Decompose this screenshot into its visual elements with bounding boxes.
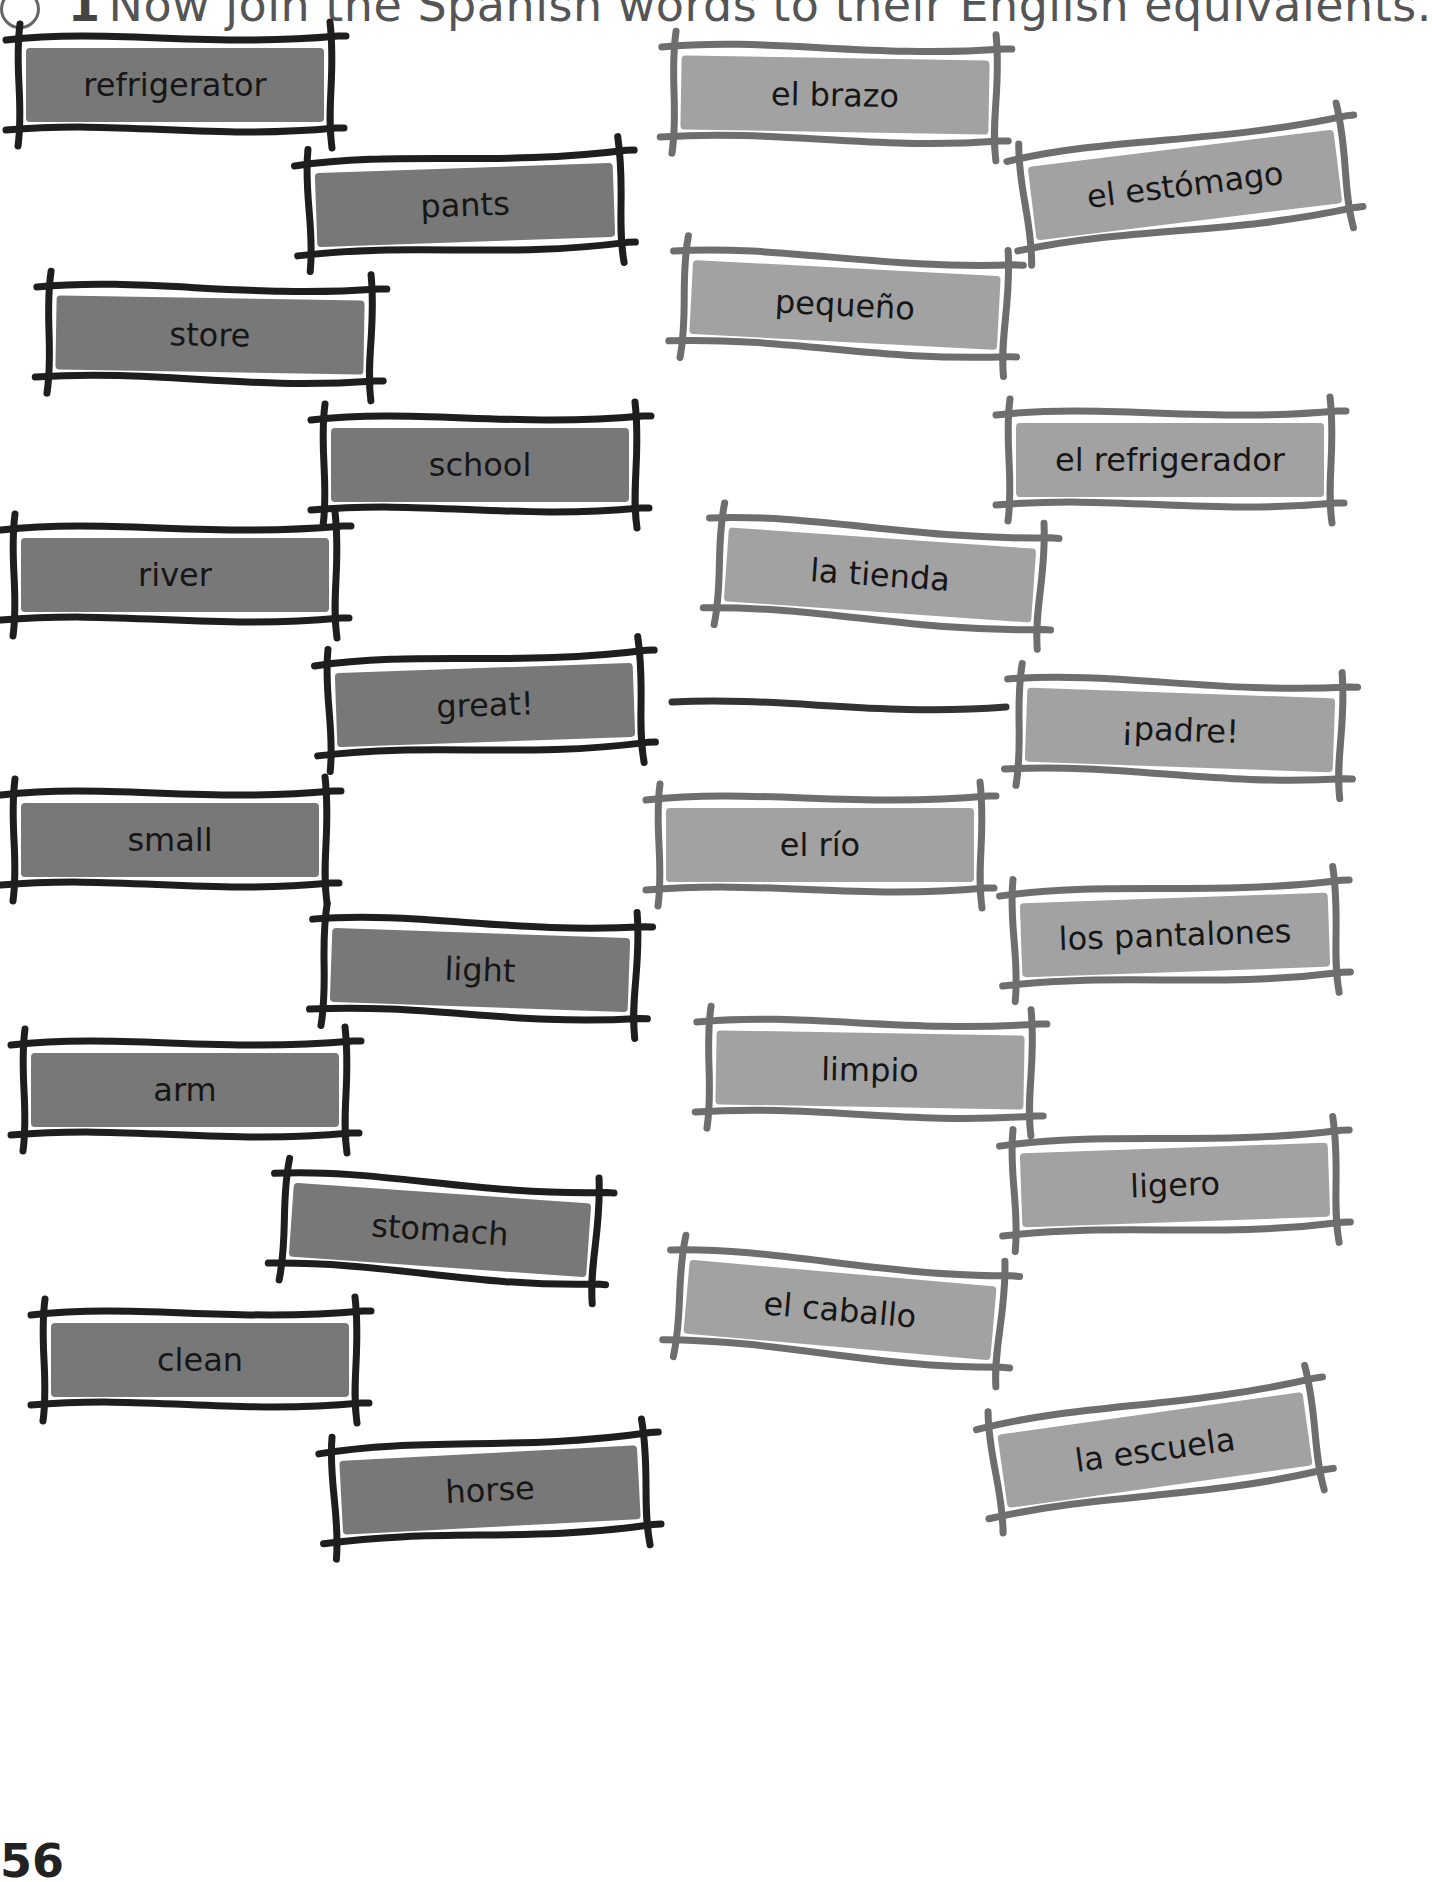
word-label: great! <box>335 663 635 747</box>
spanish-word-card[interactable]: pequeño <box>672 241 1017 369</box>
page-number: 56 <box>0 1838 64 1882</box>
instruction-heading: 1Now join the Spanish words to their Eng… <box>0 0 1432 32</box>
word-label: pants <box>315 163 615 247</box>
match-connector-line <box>672 701 1006 710</box>
word-label: small <box>21 803 319 877</box>
spanish-word-card[interactable]: la tienda <box>707 508 1054 641</box>
exercise-number: 1 <box>68 0 101 32</box>
english-word-card[interactable]: light <box>313 909 647 1030</box>
spanish-word-card[interactable]: el caballo <box>666 1240 1014 1379</box>
english-word-card[interactable]: clean <box>35 1305 365 1415</box>
word-label: el refrigerador <box>1016 423 1324 497</box>
english-word-card[interactable]: arm <box>15 1035 355 1145</box>
instruction-text: Now join the Spanish words to their Engl… <box>109 0 1432 32</box>
word-label: limpio <box>715 1030 1024 1109</box>
word-label: school <box>331 428 629 502</box>
word-label: ¡padre! <box>1025 688 1335 773</box>
english-word-card[interactable]: school <box>315 410 645 520</box>
english-word-card[interactable]: pants <box>298 144 632 265</box>
word-label: store <box>55 295 364 374</box>
english-word-card[interactable]: refrigerator <box>10 30 340 140</box>
spanish-word-card[interactable]: ¡padre! <box>1008 669 1352 791</box>
word-label: horse <box>339 1445 640 1534</box>
word-label: clean <box>51 1323 349 1397</box>
spanish-word-card[interactable]: ligero <box>1003 1124 1347 1246</box>
spanish-word-card[interactable]: el refrigerador <box>1000 405 1340 515</box>
english-word-card[interactable]: great! <box>318 644 652 765</box>
word-label: ligero <box>1020 1143 1330 1228</box>
english-word-card[interactable]: stomach <box>272 1164 609 1297</box>
word-label: light <box>330 928 630 1012</box>
word-label: los pantalones <box>1020 893 1330 978</box>
english-word-card[interactable]: small <box>5 785 335 895</box>
spanish-word-card[interactable]: limpio <box>699 1012 1041 1128</box>
word-label: el río <box>666 808 974 882</box>
word-label: refrigerator <box>26 48 324 122</box>
word-label: arm <box>31 1053 339 1127</box>
spanish-word-card[interactable]: el brazo <box>664 37 1006 153</box>
spanish-word-card[interactable]: los pantalones <box>1003 874 1347 996</box>
word-label: el brazo <box>680 55 989 134</box>
english-word-card[interactable]: river <box>5 520 345 630</box>
spanish-word-card[interactable]: el estómago <box>1010 110 1361 261</box>
english-word-card[interactable]: horse <box>322 1426 657 1553</box>
spanish-word-card[interactable]: la escuela <box>979 1372 1331 1528</box>
spanish-word-card[interactable]: el río <box>650 790 990 900</box>
english-word-card[interactable]: store <box>39 277 381 393</box>
word-label: river <box>21 538 329 612</box>
